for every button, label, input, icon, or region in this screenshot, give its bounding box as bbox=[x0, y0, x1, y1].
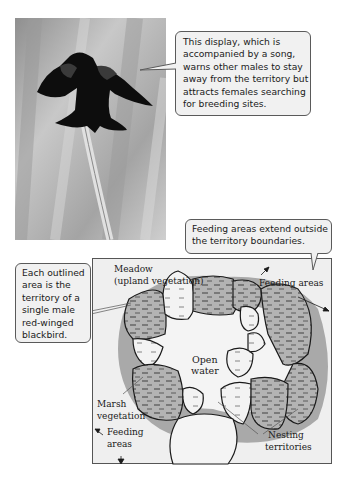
territory bbox=[240, 306, 258, 331]
callout-line: red-winged bbox=[22, 317, 90, 329]
display-callout: This display, which is accompanied by a … bbox=[175, 31, 311, 116]
open-water-sublabel: water bbox=[191, 365, 219, 376]
nesting-sublabel: territories bbox=[265, 442, 312, 453]
blackbird-photo bbox=[15, 18, 166, 240]
callout-line: accompanied by a song, bbox=[183, 48, 310, 60]
callout-line: attracts females searching bbox=[183, 86, 310, 98]
callout-line: warns other males to stay bbox=[183, 61, 310, 73]
territory bbox=[170, 414, 237, 464]
feeding-areas-label-top: Feeding areas bbox=[259, 278, 323, 289]
callout-line: Feeding areas extend outside bbox=[192, 223, 331, 235]
bird-photo-icon bbox=[15, 18, 166, 240]
feeding-areas-sublabel-bottom: areas bbox=[107, 439, 132, 450]
meadow-sublabel: (upland vegetation) bbox=[114, 276, 203, 287]
callout-line: territory of a bbox=[22, 292, 90, 304]
feeding-callout: Feeding areas extend outside the territo… bbox=[185, 219, 332, 254]
callout-line: area is the bbox=[22, 279, 90, 291]
callout-line: away from the territory but bbox=[183, 73, 310, 85]
territory bbox=[251, 377, 288, 429]
feeding-areas-label-bottom: Feeding bbox=[107, 427, 144, 438]
meadow-label: Meadow bbox=[114, 264, 153, 275]
territory-callout: Each outlined area is the territory of a… bbox=[15, 263, 91, 343]
callout-line: the territory boundaries. bbox=[192, 235, 331, 247]
open-water-label: Open bbox=[192, 354, 218, 365]
territory-map: Meadow (upland vegetation) Feeding areas… bbox=[92, 258, 332, 464]
callout-line: blackbird. bbox=[22, 329, 90, 341]
marsh-sublabel: vegetation bbox=[97, 411, 145, 422]
callout-line: for breeding sites. bbox=[183, 98, 310, 110]
callout-line: Each outlined bbox=[22, 267, 90, 279]
marsh-label: Marsh bbox=[97, 399, 126, 410]
nesting-label: Nesting bbox=[268, 430, 304, 441]
territory bbox=[124, 290, 166, 339]
callout-line: single male bbox=[22, 304, 90, 316]
callout-line: This display, which is bbox=[183, 36, 310, 48]
